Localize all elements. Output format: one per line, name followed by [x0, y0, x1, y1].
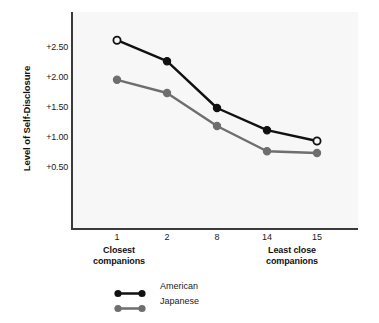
x-tick-label: 1 — [97, 232, 137, 242]
legend-item-japanese[interactable]: Japanese — [112, 296, 292, 311]
x-axis-tick-labels: 1281415ClosestcompanionsLeast closecompa… — [0, 232, 379, 248]
x-tick-label: 14 — [247, 232, 287, 242]
data-point-japanese-1 — [113, 76, 120, 83]
x-group-label-least-close-line2: companions — [232, 256, 352, 267]
x-group-label-closest-line2: companions — [59, 256, 179, 267]
x-group-label-closest-line1: Closest — [59, 245, 179, 256]
data-point-american-14 — [263, 127, 270, 134]
series-line-japanese — [117, 80, 317, 153]
data-point-japanese-15 — [313, 149, 320, 156]
chart-legend: AmericanJapanese — [112, 281, 292, 311]
legend-label: American — [160, 281, 198, 291]
data-point-japanese-8 — [213, 122, 220, 129]
x-group-label-least-close: Least closecompanions — [232, 245, 352, 267]
legend-marker-icon — [112, 299, 152, 308]
legend-marker-icon — [112, 284, 152, 293]
x-tick-label: 2 — [147, 232, 187, 242]
x-group-label-least-close-line1: Least close — [232, 245, 352, 256]
data-point-american-2 — [163, 58, 170, 65]
series-layer — [0, 0, 379, 323]
legend-item-american[interactable]: American — [112, 281, 292, 296]
data-point-american-1 — [113, 37, 120, 44]
x-group-label-closest: Closestcompanions — [59, 245, 179, 267]
data-point-american-8 — [213, 104, 220, 111]
x-tick-label: 8 — [197, 232, 237, 242]
chart-figure: Level of Self-Disclosure +2.50+2.00+1.50… — [0, 0, 379, 323]
x-tick-label: 15 — [297, 232, 337, 242]
data-point-japanese-2 — [163, 89, 170, 96]
legend-label: Japanese — [160, 296, 199, 306]
data-point-american-15 — [313, 137, 320, 144]
data-point-japanese-14 — [263, 148, 270, 155]
